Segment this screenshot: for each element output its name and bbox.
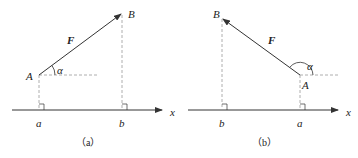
- projection-diagram: F A B α x a b （a） F A B α x a b （b）: [0, 0, 358, 158]
- point-a-label: A: [301, 79, 309, 91]
- proj-b-label: b: [219, 117, 225, 129]
- angle-label: α: [57, 64, 63, 76]
- panel-a: F A B α x a b （a）: [12, 8, 175, 148]
- force-vector: [223, 19, 300, 75]
- axis-label: x: [169, 106, 175, 118]
- right-angle-b: [122, 104, 127, 110]
- force-vector: [39, 14, 121, 75]
- point-b-label: B: [128, 8, 135, 20]
- caption-a: （a）: [76, 137, 100, 148]
- proj-a-label: a: [36, 117, 42, 129]
- point-b-label: B: [213, 8, 220, 20]
- force-label: F: [66, 34, 75, 46]
- right-angle-a: [300, 104, 305, 110]
- axis-label: x: [345, 106, 351, 118]
- right-angle-b: [222, 104, 227, 110]
- angle-arc: [52, 66, 55, 76]
- proj-a-label: a: [297, 117, 303, 129]
- force-label: F: [267, 34, 276, 46]
- right-angle-a: [39, 104, 44, 110]
- proj-b-label: b: [119, 117, 125, 129]
- panel-b: F A B α x a b （b）: [188, 8, 351, 148]
- angle-label: α: [307, 60, 313, 72]
- point-a-label: A: [25, 70, 33, 82]
- caption-b: （b）: [252, 137, 277, 148]
